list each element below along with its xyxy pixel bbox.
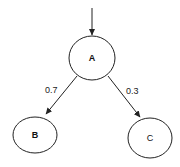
node-a-label: A: [89, 53, 96, 63]
edge-a-to-c: [108, 76, 140, 117]
node-c: C: [128, 118, 172, 158]
probability-tree-diagram: 0.7 0.3 A B C: [0, 0, 180, 167]
node-b: B: [13, 117, 57, 153]
node-b-label: B: [32, 130, 39, 140]
edge-label-a-to-c: 0.3: [126, 86, 139, 96]
node-c-label: C: [147, 133, 154, 143]
edge-a-to-b: [46, 76, 77, 114]
edge-label-a-to-b: 0.7: [45, 85, 58, 95]
node-a: A: [69, 36, 115, 80]
